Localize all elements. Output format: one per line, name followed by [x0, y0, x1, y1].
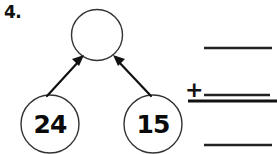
- arrow-left-to-sum: [47, 55, 84, 96]
- addend-left-value: 24: [20, 112, 80, 137]
- arrow-right-to-sum: [113, 55, 151, 96]
- sum-circle[interactable]: [72, 10, 123, 61]
- addend-right-value: 15: [123, 112, 183, 137]
- plus-operator: +: [185, 80, 203, 100]
- math-worksheet-problem: 4. 24 15 +: [0, 0, 277, 154]
